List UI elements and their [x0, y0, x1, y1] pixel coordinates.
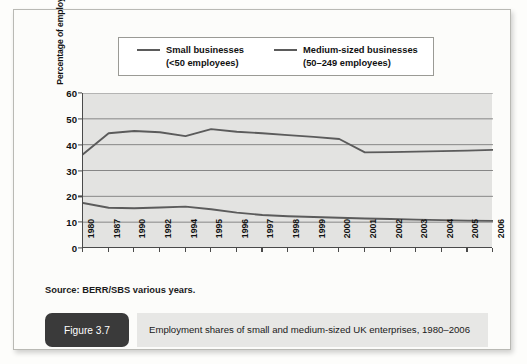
x-tick-mark-1998: [287, 248, 288, 252]
legend-label-small-line1: Small businesses: [166, 44, 244, 57]
x-tick-label-2002: 2002: [394, 219, 404, 253]
y-tick-label-60: 60: [66, 88, 77, 99]
x-tick-label-2000: 2000: [342, 219, 352, 253]
legend-label-medium-line1: Medium-sized businesses: [303, 44, 418, 57]
legend-label-small: Small businesses (<50 employees): [166, 44, 244, 69]
y-tick-label-0: 0: [72, 243, 77, 254]
x-tick-mark-1992: [159, 248, 160, 252]
figure-number-badge: Figure 3.7: [45, 313, 129, 347]
legend-line-icon-small: [137, 49, 160, 51]
x-tick-mark-1997: [261, 248, 262, 252]
x-tick-mark-2000: [338, 248, 339, 252]
x-tick-label-2001: 2001: [368, 219, 378, 253]
legend-label-medium: Medium-sized businesses (50–249 employee…: [303, 44, 418, 69]
x-tick-label-2004: 2004: [445, 219, 455, 253]
x-tick-label-2005: 2005: [470, 219, 480, 253]
chart-plot-area: Percentage of employment 0102030405060 1…: [82, 93, 492, 248]
x-tick-label-1998: 1998: [291, 219, 301, 253]
x-tick-label-1987: 1987: [112, 219, 122, 253]
page-background: Small businesses (<50 employees) Medium-…: [0, 0, 527, 364]
x-tick-mark-1987: [108, 248, 109, 252]
y-axis-title: Percentage of employment: [55, 0, 65, 101]
y-tick-mark-10: [78, 222, 82, 223]
x-tick-mark-2001: [364, 248, 365, 252]
y-tick-label-20: 20: [66, 191, 77, 202]
x-tick-label-1999: 1999: [317, 219, 327, 253]
x-tick-mark-2006: [492, 248, 493, 252]
figure-caption-text: Employment shares of small and medium-si…: [137, 313, 488, 347]
x-tick-label-1980: 1980: [86, 219, 96, 253]
y-tick-label-40: 40: [66, 139, 77, 150]
x-tick-label-1990: 1990: [137, 219, 147, 253]
x-tick-label-1995: 1995: [214, 219, 224, 253]
figure-card: Small businesses (<50 employees) Medium-…: [13, 9, 511, 350]
x-tick-mark-1990: [133, 248, 134, 252]
y-tick-mark-30: [78, 170, 82, 171]
legend-label-small-line2: (<50 employees): [166, 57, 244, 70]
x-tick-mark-2002: [390, 248, 391, 252]
x-tick-label-1994: 1994: [189, 219, 199, 253]
y-tick-label-50: 50: [66, 113, 77, 124]
y-tick-label-10: 10: [66, 217, 77, 228]
x-tick-mark-1996: [236, 248, 237, 252]
chart-legend: Small businesses (<50 employees) Medium-…: [118, 37, 434, 76]
x-tick-label-2003: 2003: [419, 219, 429, 253]
legend-line-icon-medium: [274, 49, 297, 51]
x-tick-label-1992: 1992: [163, 219, 173, 253]
legend-item-medium-businesses: Medium-sized businesses (50–249 employee…: [274, 44, 418, 69]
y-tick-mark-40: [78, 144, 82, 145]
x-tick-mark-2003: [415, 248, 416, 252]
x-tick-mark-1994: [185, 248, 186, 252]
legend-label-medium-line2: (50–249 employees): [303, 57, 418, 70]
y-tick-mark-20: [78, 196, 82, 197]
x-tick-mark-1999: [313, 248, 314, 252]
legend-item-small-businesses: Small businesses (<50 employees): [137, 44, 244, 69]
x-tick-mark-1995: [210, 248, 211, 252]
y-tick-mark-60: [78, 92, 82, 93]
x-tick-mark-2005: [466, 248, 467, 252]
y-tick-mark-50: [78, 118, 82, 119]
x-tick-mark-2004: [441, 248, 442, 252]
series-line-0: [83, 129, 493, 154]
source-note: Source: BERR/SBS various years.: [45, 285, 195, 295]
y-tick-label-30: 30: [66, 165, 77, 176]
figure-caption: Figure 3.7 Employment shares of small an…: [45, 313, 488, 347]
x-tick-label-1996: 1996: [240, 219, 250, 253]
x-tick-mark-1980: [82, 248, 83, 252]
x-tick-label-1997: 1997: [265, 219, 275, 253]
x-tick-label-2006: 2006: [496, 219, 506, 253]
